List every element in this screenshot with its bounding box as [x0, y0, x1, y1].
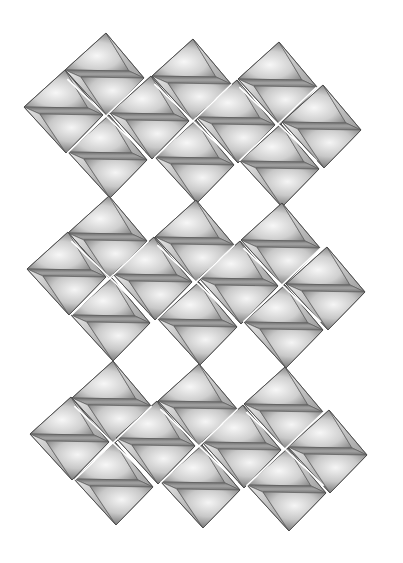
structure-canvas — [0, 0, 403, 563]
slab-layers — [24, 33, 367, 531]
slab-3 — [30, 361, 367, 531]
slab-1 — [24, 33, 361, 207]
slab-2 — [27, 196, 365, 368]
